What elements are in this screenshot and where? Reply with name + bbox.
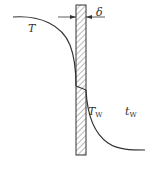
wall-temperature-diagram: T δ TW tW: [0, 0, 147, 174]
label-thickness: δ: [96, 6, 103, 19]
coolant-temperature-curve: [86, 90, 145, 150]
label-fluid-temp: T: [28, 22, 37, 35]
fluid-temperature-curve: [13, 17, 76, 86]
wall: [76, 5, 86, 155]
label-wall-temp: TW: [88, 105, 103, 119]
label-coolant-temp: tW: [125, 105, 137, 119]
